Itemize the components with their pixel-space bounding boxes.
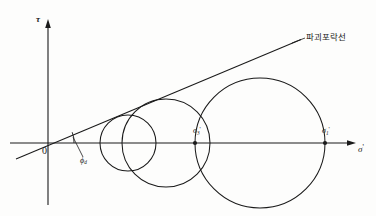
mohr-circle-figure: τ σ' 0 ϕd σ3' σ1' 파괴포락선 [0,0,376,216]
sigma1-point-marker [323,141,327,145]
tau-axis-arrowhead [45,19,51,28]
friction-angle-label: ϕd [80,157,87,166]
sigma3-label: σ3' [193,126,201,136]
origin-label: 0 [42,146,47,156]
envelope-label-leader [292,38,305,43]
tau-axis-label: τ [36,15,40,24]
sigma-axis-group [10,140,356,146]
failure-envelope-label: 파괴포락선 [306,33,346,42]
friction-angle-leader [73,137,83,157]
sigma1-label: σ1' [322,126,330,136]
sigma-axis-arrowhead [347,140,356,146]
tau-axis-group [45,19,51,205]
sigma-axis-label: σ' [358,144,364,154]
sigma3-point-marker [193,141,197,145]
